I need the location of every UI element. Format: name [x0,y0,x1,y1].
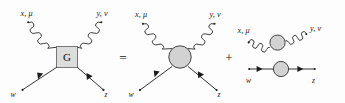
term-disconnected-propagators: x, μ y, ν w z [237,24,322,86]
plus-operator: + [225,50,232,65]
fermion-propagator-right-arrow [297,66,303,72]
photon-leg-top-left-endpoint [27,21,29,23]
photon-leg-top-right [77,22,101,48]
label-x-mu-propagator: x, μ [237,26,250,35]
photon-propagator: x, μ y, ν [237,24,322,53]
photon-propagator-right-endpoint [305,33,307,35]
label-w-blob: w [129,90,135,99]
photon-leg-top-left-blob-endpoint [142,23,144,25]
fermion-leg-bottom-right-arrow [86,73,92,80]
term-connected-blob: x, μ y, ν w z [129,10,222,99]
fermion-propagator-right-endpoint [314,68,316,70]
photon-leg-top-left [29,22,58,48]
fermion-propagator-blob [273,61,288,76]
fermion-propagator-left-endpoint [248,68,250,70]
photon-leg-top-right-endpoint [100,21,102,23]
label-x-mu-blob: x, μ [134,10,147,19]
label-w-box: w [11,90,17,99]
label-z-blob: z [217,90,221,99]
photon-leg-top-right-blob-endpoint [213,23,215,25]
diagram-canvas: G x, μ y, ν w z = [0,0,345,103]
g-vertex-label: G [63,51,71,63]
fermion-leg-bottom-right-blob [188,67,217,91]
term-box-vertex: G x, μ y, ν w z [11,9,109,99]
label-w-propagator: w [246,76,252,85]
fermion-leg-bottom-right [77,67,103,90]
photon-propagator-left-wave [249,39,270,52]
label-y-nu-box: y, ν [96,9,109,18]
label-z-propagator: z [311,76,315,85]
feynman-diagram-figure: G x, μ y, ν w z = [0,0,345,103]
photon-propagator-blob [270,35,285,50]
photon-leg-top-left-blob [143,24,172,50]
label-y-nu-propagator: y, ν [309,24,322,33]
label-y-nu-blob: y, ν [209,10,222,19]
fermion-leg-bottom-left-blob-endpoint [139,89,141,91]
equals-operator: = [119,50,126,65]
fermion-propagator-left-arrow [257,66,263,72]
label-x-mu-box: x, μ [20,9,33,18]
fermion-leg-bottom-left-blob [140,67,172,91]
fermion-propagator: w z [246,61,316,85]
photon-leg-top-right-blob [188,24,214,50]
fermion-leg-bottom-left-endpoint [21,89,23,91]
photon-propagator-right-wave [285,31,306,44]
fermion-leg-bottom-left [23,67,57,90]
label-z-box: z [104,90,108,99]
connected-blob [169,46,191,68]
photon-propagator-left-endpoint [248,41,250,43]
